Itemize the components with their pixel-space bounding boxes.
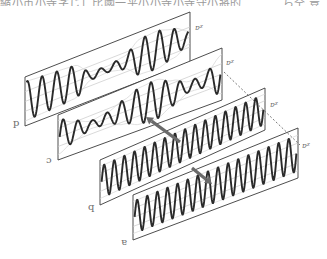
panel-label: ɐ xyxy=(121,236,127,247)
panel-label: p xyxy=(13,117,19,128)
panel-side-label: ɐᵡ xyxy=(270,100,279,109)
panel-label: q xyxy=(88,201,95,212)
panel-side-label: ɐᵡ xyxy=(195,23,204,32)
panel-side-label: ɐᵡ xyxy=(226,58,235,67)
waveform-stack-diagram: pɐᵡɔɐᵡqɐᵡɐɐᵡ xyxy=(0,0,327,259)
panel-label: ɔ xyxy=(46,154,52,165)
panel-side-label: ɐᵡ xyxy=(302,141,311,150)
